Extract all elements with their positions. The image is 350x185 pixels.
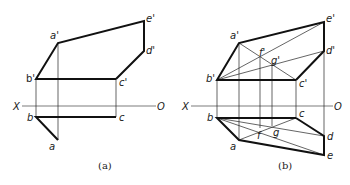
label-d-prime: d'	[146, 45, 155, 56]
projection-drawings: X O a' e' d' c' b' b c a (a) X O	[0, 0, 350, 185]
label-b-prime: b'	[26, 73, 35, 84]
label-e-prime: e'	[146, 13, 155, 24]
label-a-prime: a'	[50, 30, 59, 41]
axis-label-x-a: X	[12, 101, 21, 112]
label-b-b: b	[207, 112, 213, 123]
label-d-b: d	[327, 131, 334, 142]
axis-label-x-b: X	[181, 101, 190, 112]
figure-b: X O a' e' d' c' b' f' g' b c a d e f	[181, 13, 342, 171]
label-b: b	[27, 112, 33, 123]
label-g-prime: g'	[271, 55, 280, 66]
label-c-b: c	[299, 108, 305, 119]
label-a-prime-b: a'	[230, 30, 239, 41]
label-c: c	[119, 112, 125, 123]
axis-label-o-b: O	[334, 101, 342, 112]
line-a-prime-c-prime	[239, 43, 296, 80]
label-g: g	[273, 127, 279, 138]
label-f-prime: f'	[259, 47, 265, 58]
caption-a: (a)	[98, 160, 112, 171]
label-e-b: e	[327, 150, 333, 161]
label-c-prime-b: c'	[299, 78, 307, 89]
line-a-c	[239, 118, 296, 140]
label-d-prime-b: d'	[326, 45, 335, 56]
axis-label-o-a: O	[157, 101, 165, 112]
label-a-b: a	[230, 141, 236, 152]
figure-a: X O a' e' d' c' b' b c a (a)	[12, 13, 165, 171]
label-b-prime-b: b'	[206, 73, 215, 84]
label-a: a	[49, 141, 55, 152]
top-view-outline-a	[36, 117, 116, 140]
label-e-prime-b: e'	[326, 13, 335, 24]
label-c-prime: c'	[119, 77, 127, 88]
caption-b: (b)	[278, 160, 292, 171]
